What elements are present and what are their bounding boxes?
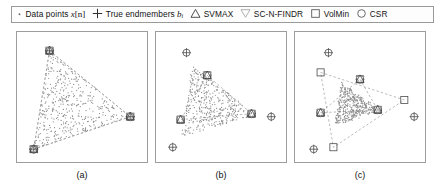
data-point [206, 119, 207, 120]
data-point [345, 109, 346, 110]
data-point [204, 99, 205, 100]
data-point [354, 110, 355, 111]
data-point [234, 100, 235, 101]
data-point [351, 119, 352, 120]
data-point [70, 129, 71, 130]
data-point [53, 59, 54, 60]
data-point [189, 90, 190, 91]
data-point [38, 129, 39, 130]
plus-circle-marker [92, 8, 103, 20]
data-point [192, 83, 193, 84]
panel-b-estimated-simplex [181, 75, 252, 119]
data-point [63, 127, 64, 128]
data-point [358, 117, 359, 118]
data-point [352, 111, 353, 112]
data-point [363, 113, 364, 114]
data-point [354, 99, 355, 100]
data-point [344, 107, 345, 108]
data-point [78, 122, 79, 123]
plus-circle-marker [410, 112, 419, 121]
data-point [121, 111, 122, 112]
data-point [51, 68, 52, 69]
data-point [356, 116, 357, 117]
data-point [214, 112, 215, 113]
plus-circle-marker [267, 112, 276, 121]
data-point [39, 127, 40, 128]
data-point [45, 137, 46, 138]
data-point [342, 82, 343, 83]
data-point [378, 108, 379, 109]
data-point [53, 121, 54, 122]
data-point [70, 117, 71, 118]
data-point [58, 106, 59, 107]
data-point [202, 125, 203, 126]
legend-math-x: x[n] [69, 10, 86, 19]
data-point [52, 111, 53, 112]
data-point [202, 97, 203, 98]
data-point [102, 114, 103, 115]
data-point [200, 74, 201, 75]
data-point [345, 101, 346, 102]
data-point [57, 115, 58, 116]
data-point [55, 94, 56, 95]
data-point [210, 114, 211, 115]
data-point [341, 107, 342, 108]
data-point [358, 111, 359, 112]
data-point [370, 102, 371, 103]
data-point [371, 105, 372, 106]
data-point [213, 85, 214, 86]
data-point [217, 86, 218, 87]
data-point [355, 94, 356, 95]
data-point [351, 89, 352, 90]
data-point [349, 113, 350, 114]
data-point [45, 75, 46, 76]
data-point [53, 70, 54, 71]
data-point [344, 117, 345, 118]
data-point [121, 115, 122, 116]
data-point [48, 93, 49, 94]
panel-a-endmember-markers [29, 46, 135, 154]
data-point [72, 110, 73, 111]
data-point [72, 134, 73, 135]
data-point [185, 131, 186, 132]
data-point [92, 110, 93, 111]
data-point [53, 92, 54, 93]
data-point [364, 104, 365, 105]
data-point [78, 84, 79, 85]
data-point [223, 109, 224, 110]
data-point [63, 82, 64, 83]
data-point [222, 115, 223, 116]
legend: Data points x[n] True endmembers bi SVMA… [11, 6, 434, 23]
data-point [192, 122, 193, 123]
data-point [195, 96, 196, 97]
data-point [95, 127, 96, 128]
data-point [362, 106, 363, 107]
data-point [346, 105, 347, 106]
data-point [57, 76, 58, 77]
data-point [226, 117, 227, 118]
data-point [113, 116, 114, 117]
data-point [204, 113, 205, 114]
data-point [194, 70, 195, 71]
data-point [193, 118, 194, 119]
data-point [83, 130, 84, 131]
data-point [201, 107, 202, 108]
data-point [217, 111, 218, 112]
data-point [195, 68, 196, 69]
data-point [345, 104, 346, 105]
data-point [71, 133, 72, 134]
data-point [222, 103, 223, 104]
data-point [338, 108, 339, 109]
data-point [341, 91, 342, 92]
data-point [50, 61, 51, 62]
data-point [192, 133, 193, 134]
data-point [232, 108, 233, 109]
data-point [204, 95, 205, 96]
data-point [342, 90, 343, 91]
data-point [47, 118, 48, 119]
data-point [233, 105, 234, 106]
data-point [198, 96, 199, 97]
data-point [223, 92, 224, 93]
data-point [349, 88, 350, 89]
data-point [222, 123, 223, 124]
